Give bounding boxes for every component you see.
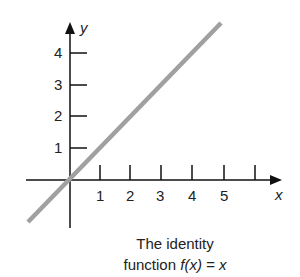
y-tick-label-3: 3 (54, 77, 62, 92)
y-tick-label-2: 2 (54, 108, 62, 123)
y-ticks (70, 53, 87, 148)
figure-caption: The identity function f(x) = x (100, 233, 250, 275)
caption-formula: f(x) = x (180, 256, 226, 273)
x-axis-label: x (275, 186, 283, 203)
y-axis-label: y (80, 19, 88, 36)
caption-line-2: function f(x) = x (100, 254, 250, 275)
x-axis-arrow-icon (270, 175, 282, 185)
x-tick-label-2: 2 (126, 188, 134, 203)
x-tick-label-3: 3 (156, 188, 164, 203)
identity-function-figure: y x 4 3 2 1 1 2 3 4 5 The identity funct… (0, 0, 300, 277)
x-tick-label-4: 4 (188, 188, 196, 203)
x-ticks (100, 165, 255, 180)
y-axis-arrow-icon (65, 22, 75, 34)
caption-prefix: function (124, 256, 181, 273)
x-tick-label-1: 1 (96, 188, 104, 203)
y-tick-label-1: 1 (54, 140, 62, 155)
caption-line-1: The identity (100, 233, 250, 254)
y-tick-label-4: 4 (54, 45, 62, 60)
x-tick-label-5: 5 (220, 188, 228, 203)
